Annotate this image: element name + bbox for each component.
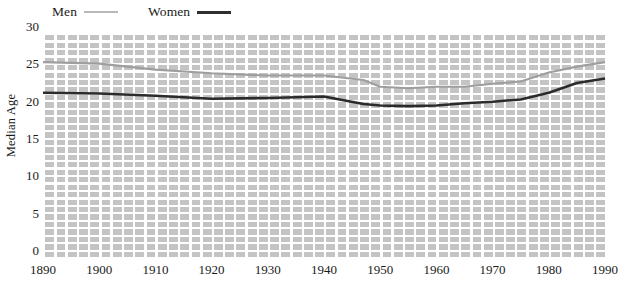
- legend-swatch-women-icon: [197, 11, 231, 14]
- plot-lines: [43, 33, 605, 257]
- legend-swatch-men-icon: [84, 11, 118, 13]
- x-tick-label: 1910: [142, 263, 168, 276]
- y-tick-label: 5: [33, 206, 40, 219]
- y-tick-label: 15: [26, 132, 39, 145]
- x-tick-label: 1980: [536, 263, 562, 276]
- x-tick-label: 1920: [199, 263, 225, 276]
- y-axis-tick-labels: 051015202530: [14, 26, 39, 258]
- plot-area: [43, 33, 605, 257]
- y-tick-label: 10: [26, 169, 39, 182]
- legend-label-men: Men: [52, 5, 77, 19]
- y-tick-label: 30: [26, 20, 39, 33]
- x-axis-tick-labels: 1890190019101920193019401950196019701980…: [43, 263, 605, 281]
- x-tick-label: 1900: [86, 263, 112, 276]
- x-tick-label: 1890: [30, 263, 56, 276]
- y-tick-label: 0: [33, 244, 40, 257]
- x-tick-label: 1950: [367, 263, 393, 276]
- legend-item-women: Women: [148, 5, 231, 19]
- chart-container: Men Women Median Age 051015202530 189019…: [0, 0, 618, 282]
- x-tick-label: 1960: [423, 263, 449, 276]
- chart-legend: Men Women: [52, 2, 231, 22]
- line-series-women: [43, 79, 605, 107]
- y-tick-label: 20: [26, 94, 39, 107]
- line-series-men: [43, 62, 605, 88]
- legend-item-men: Men: [52, 5, 118, 19]
- legend-label-women: Women: [148, 5, 190, 19]
- x-tick-label: 1930: [255, 263, 281, 276]
- x-tick-label: 1990: [592, 263, 618, 276]
- x-tick-label: 1970: [480, 263, 506, 276]
- x-tick-label: 1940: [311, 263, 337, 276]
- y-tick-label: 25: [26, 57, 39, 70]
